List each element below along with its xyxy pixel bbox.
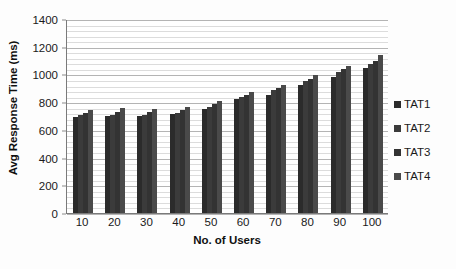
y-axis-tick-label: 1000 [32,69,58,81]
legend-swatch-icon [394,101,401,108]
bar-tat4-20 [120,108,125,213]
plot-area [66,20,388,214]
legend-item-tat3[interactable]: TAT3 [394,140,454,164]
bar-tat4-80 [313,75,318,213]
x-axis-tick-label: 70 [269,216,282,228]
x-axis-tick-labels: 102030405060708090100 [66,216,388,232]
legend-label: TAT4 [404,170,430,182]
legend-item-tat1[interactable]: TAT1 [394,92,454,116]
chart-legend: TAT1TAT2TAT3TAT4 [394,92,454,188]
y-axis-tick-label: 600 [39,125,58,137]
y-axis-tick-label: 400 [39,153,58,165]
bar-tat4-10 [88,110,93,213]
x-axis-tick-label: 50 [204,216,217,228]
bar-group [67,20,99,213]
bar-group [196,20,228,213]
legend-label: TAT1 [404,98,430,110]
bar-group [325,20,357,213]
y-axis-tick-label: 200 [39,180,58,192]
x-axis-tick-label: 80 [301,216,314,228]
bar-tat4-30 [152,109,157,213]
x-axis-tick-label: 90 [333,216,346,228]
x-axis-tick-label: 30 [140,216,153,228]
bar-group [131,20,163,213]
x-axis-tick-label: 100 [362,216,381,228]
chart-figure: Avg Response Time (ms) 02004006008001000… [0,0,456,269]
x-axis-tick-label: 10 [76,216,89,228]
legend-label: TAT2 [404,122,430,134]
bar-group [99,20,131,213]
legend-item-tat4[interactable]: TAT4 [394,164,454,188]
x-axis-tick-label: 20 [108,216,121,228]
bar-tat4-70 [281,85,286,213]
legend-label: TAT3 [404,146,430,158]
bar-group [357,20,389,213]
legend-swatch-icon [394,149,401,156]
bar-group [228,20,260,213]
y-axis-tick-label: 1400 [32,14,58,26]
bar-tat4-40 [185,107,190,213]
legend-swatch-icon [394,173,401,180]
bar-group [292,20,324,213]
bar-group [164,20,196,213]
legend-swatch-icon [394,125,401,132]
bar-tat4-90 [346,66,351,213]
x-axis-tick-label: 40 [172,216,185,228]
y-axis-tick-label: 1200 [32,42,58,54]
bar-group [260,20,292,213]
gridline-major [67,214,388,215]
y-axis-tick-label: 0 [52,208,58,220]
bar-groups [67,20,388,213]
legend-item-tat2[interactable]: TAT2 [394,116,454,140]
bar-tat4-50 [217,101,222,213]
x-axis-title: No. of Users [66,234,388,246]
y-axis-tick-labels: 0200400600800100012001400 [24,20,62,214]
y-axis-title-text: Avg Response Time (ms) [7,40,19,175]
y-axis-title: Avg Response Time (ms) [2,0,24,215]
bar-tat4-100 [378,55,383,213]
y-axis-tick-label: 800 [39,97,58,109]
x-axis-tick-label: 60 [237,216,250,228]
bar-tat4-60 [249,92,254,213]
